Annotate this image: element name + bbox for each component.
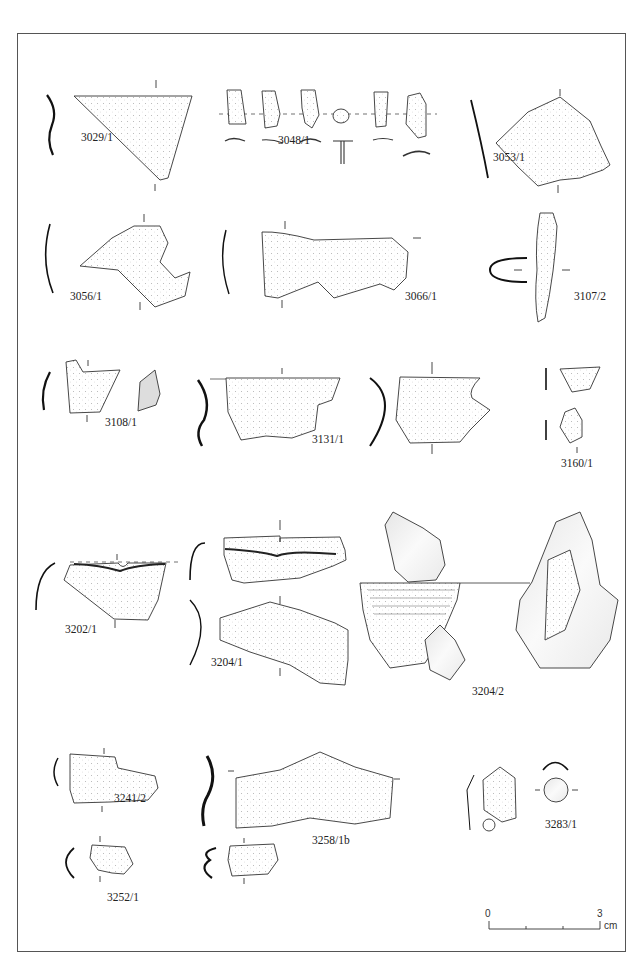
sherd-3160-1 — [546, 367, 600, 453]
specimen-label: 3204/1 — [211, 656, 243, 668]
sherd-3131-1 — [198, 362, 490, 454]
specimen-label: 3066/1 — [405, 290, 437, 302]
sherd-3204-2 — [360, 512, 618, 680]
specimen-label: 3056/1 — [70, 290, 102, 302]
sherd-3053-1 — [471, 89, 610, 193]
specimen-label: 3258/1b — [312, 834, 350, 846]
sherd-3202-1 — [36, 554, 180, 628]
sherd-unlabeled — [204, 838, 278, 884]
specimen-label: 3283/1 — [545, 818, 577, 830]
specimen-label: 3131/1 — [312, 433, 344, 445]
scale-end-label: 3 — [597, 908, 603, 919]
specimen-label: 3108/1 — [105, 416, 137, 428]
sherd-3048-1 — [219, 90, 437, 164]
scale-bar — [489, 921, 600, 929]
sherd-3056-1 — [46, 214, 190, 310]
specimen-label: 3252/1 — [107, 891, 139, 903]
specimen-label: 3107/2 — [574, 290, 606, 302]
sherd-3108-1 — [43, 360, 160, 422]
sherd-3107-2 — [490, 213, 570, 322]
specimen-label: 3241/2 — [114, 792, 146, 804]
sherd-3252-1 — [66, 836, 133, 882]
specimen-label: 3202/1 — [65, 623, 97, 635]
scale-unit-label: cm — [604, 920, 617, 931]
scale-start-label: 0 — [485, 908, 491, 919]
sherd-3258-1b — [203, 752, 400, 828]
sherd-3066-1 — [223, 221, 421, 308]
specimen-label: 3053/1 — [493, 151, 525, 163]
sherd-3029-1 — [47, 80, 192, 191]
specimen-label: 3160/1 — [561, 457, 593, 469]
specimen-label: 3029/1 — [81, 131, 113, 143]
specimen-label: 3048/1 — [278, 134, 310, 146]
specimen-label: 3204/2 — [472, 685, 504, 697]
